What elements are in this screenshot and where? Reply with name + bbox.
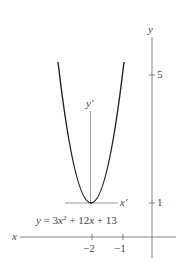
y-tick-label-1: 1 [157,197,163,208]
x-tick-label-neg1: −1 [114,243,126,254]
eq-part: = 3 [41,214,58,226]
eq-part: + 12 [67,214,90,226]
y-prime-label: y′ [86,98,93,109]
y-axis-label: y [148,24,153,35]
eq-part: + 13 [94,214,117,226]
x-tick-label-neg2: −2 [83,243,95,254]
y-tick-label-5: 5 [157,69,163,80]
x-axis-label: x [12,231,17,242]
equation-label: y = 3x2 + 12x + 13 [36,215,117,226]
parabola-curve [58,62,124,203]
graph-canvas [0,0,183,275]
x-prime-label: x′ [120,197,127,208]
